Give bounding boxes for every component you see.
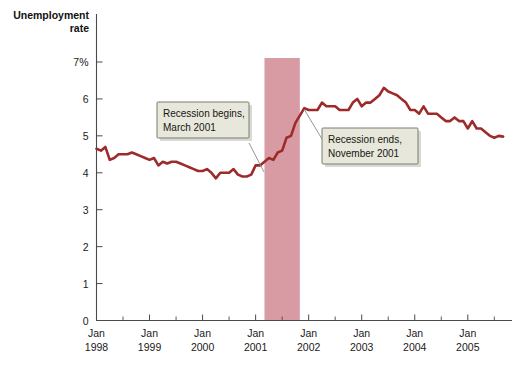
y-axis-title-line1: Unemployment — [13, 9, 89, 21]
chart-canvas: Unemployment rate 01234567% Jan1998Jan19… — [0, 0, 520, 371]
chart-axes — [97, 14, 513, 321]
x-tick-label-month-1999: Jan — [141, 327, 158, 339]
x-tick-label-month-2005: Jan — [459, 327, 476, 339]
x-tick-label-year-1998: 1998 — [85, 341, 109, 353]
leader-line-recession-ends — [304, 109, 322, 139]
callout-begins-line2: March 2001 — [163, 122, 216, 133]
x-tick-label-month-2003: Jan — [353, 327, 370, 339]
recession-band — [264, 58, 299, 321]
y-tick-label-5: 5 — [83, 130, 89, 142]
x-tick-label-year-1999: 1999 — [138, 341, 162, 353]
unemployment-rate-chart: Unemployment rate 01234567% Jan1998Jan19… — [0, 0, 520, 371]
x-tick-label-year-2005: 2005 — [456, 341, 480, 353]
y-tick-label-7: 7% — [73, 56, 88, 68]
y-tick-label-1: 1 — [83, 278, 89, 290]
annotation-recession-begins[interactable]: Recession begins, March 2001 — [157, 102, 252, 141]
y-axis-title: Unemployment rate — [13, 9, 89, 34]
y-tick-label-0: 0 — [83, 315, 89, 327]
callout-ends-line2: November 2001 — [328, 148, 400, 159]
leader-line-recession-begins — [249, 143, 264, 172]
x-tick-label-month-2002: Jan — [300, 327, 317, 339]
callout-ends-line1: Recession ends, — [328, 134, 402, 145]
y-axis-tick-labels: 01234567% — [73, 56, 88, 327]
x-tick-label-month-1998: Jan — [88, 327, 105, 339]
x-tick-label-year-2003: 2003 — [350, 341, 374, 353]
x-tick-label-year-2002: 2002 — [297, 341, 321, 353]
x-tick-label-month-2000: Jan — [194, 327, 211, 339]
y-tick-label-2: 2 — [83, 241, 89, 253]
y-tick-label-3: 3 — [83, 204, 89, 216]
x-tick-label-month-2001: Jan — [247, 327, 264, 339]
y-axis-title-line2: rate — [70, 22, 89, 34]
x-tick-label-year-2004: 2004 — [403, 341, 427, 353]
y-tick-label-6: 6 — [83, 93, 89, 105]
y-axis-ticks — [97, 62, 103, 321]
x-axis-tick-labels: Jan1998Jan1999Jan2000Jan2001Jan2002Jan20… — [85, 327, 480, 353]
x-tick-label-month-2004: Jan — [406, 327, 423, 339]
callout-begins-line1: Recession begins, — [163, 108, 245, 119]
x-tick-label-year-2001: 2001 — [244, 341, 268, 353]
y-tick-label-4: 4 — [83, 167, 89, 179]
annotation-recession-ends[interactable]: Recession ends, November 2001 — [322, 128, 421, 167]
x-tick-label-year-2000: 2000 — [191, 341, 215, 353]
